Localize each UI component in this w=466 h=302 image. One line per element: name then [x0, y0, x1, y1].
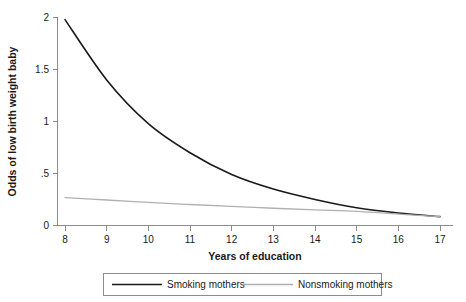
x-tick-label: 14 [309, 234, 321, 245]
x-tick-label: 17 [434, 234, 446, 245]
y-tick-label: 1 [43, 116, 49, 127]
chart-figure: 0.511.52 891011121314151617 Odds of low … [0, 0, 466, 302]
x-tick-label: 12 [226, 234, 238, 245]
x-tick-label: 10 [143, 234, 155, 245]
x-tick-label: 15 [351, 234, 363, 245]
legend-label-nonsmoking-mothers: Nonsmoking mothers [298, 279, 392, 290]
x-tick-label: 9 [104, 234, 110, 245]
y-axis-title: Odds of low birth weight baby [6, 46, 18, 196]
x-tick-label: 16 [393, 234, 405, 245]
x-axis-title: Years of education [208, 250, 301, 262]
y-tick-label: 2 [43, 12, 49, 23]
odds-of-low-birth-weight-line-chart: 0.511.52 891011121314151617 Odds of low … [0, 0, 466, 302]
x-tick-label: 13 [268, 234, 280, 245]
x-tick-label: 8 [62, 234, 68, 245]
y-tick-label: 0 [43, 220, 49, 231]
y-tick-label: 1.5 [35, 64, 49, 75]
y-tick-label: .5 [41, 168, 50, 179]
x-tick-label: 11 [185, 234, 196, 245]
legend-label-smoking-mothers: Smoking mothers [167, 279, 245, 290]
